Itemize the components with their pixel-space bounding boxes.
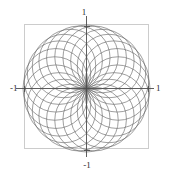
plot-screenshot: 1 -1 -1 1: [0, 0, 173, 177]
y-axis-max-label: 1: [82, 8, 87, 17]
y-axis-min-label: -1: [83, 161, 91, 170]
rosette-plot: [0, 0, 173, 177]
x-axis-max-label: 1: [156, 84, 161, 93]
x-axis-min-label: -1: [10, 84, 18, 93]
